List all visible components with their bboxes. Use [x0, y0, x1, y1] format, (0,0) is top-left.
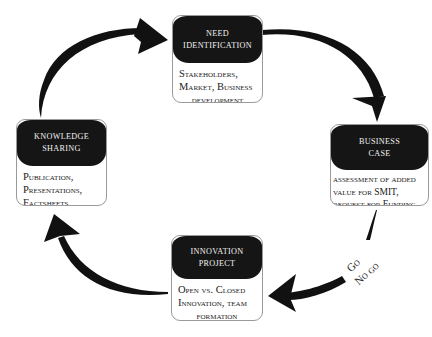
node-body-line: Factsheets — [23, 196, 100, 206]
node-title-line: Need — [173, 28, 262, 40]
node-title-line: Sharing — [17, 143, 106, 155]
node-body-line: value for SMIT, — [333, 186, 426, 199]
node-body-line: Market, Business — [179, 80, 256, 93]
node-title-line: Case — [331, 148, 428, 160]
node-header: Need Identification — [173, 16, 262, 63]
arrow-knowledge-to-need — [39, 18, 168, 118]
node-header: Innovation Project — [172, 236, 262, 279]
node-title-line: Innovation — [172, 246, 262, 258]
node-body-line: development — [179, 93, 256, 103]
node-title-line: Knowledge — [17, 131, 106, 143]
node-body-line: Innovation, team — [178, 296, 256, 309]
node-need-identification: Need Identification Stakeholders, Market… — [172, 15, 263, 103]
node-business-case: Business Case assessment of added value … — [330, 124, 429, 206]
node-body-line: assessment of added — [333, 173, 426, 186]
node-body-line: formation — [178, 309, 256, 321]
node-body-line: Open vs. Closed — [178, 283, 256, 296]
arrow-need-to-business — [262, 29, 386, 122]
node-body-line: request for Funding — [333, 198, 426, 206]
node-title-line: Project — [172, 258, 262, 270]
node-body: Open vs. Closed Innovation, team formati… — [172, 279, 262, 321]
arrow-business-to-innovation — [268, 210, 377, 312]
node-body: Publication, Presentations, Factsheets — [17, 166, 106, 206]
node-body-line: Publication, — [23, 170, 100, 183]
node-title-line: Business — [331, 136, 428, 148]
node-header: Knowledge Sharing — [17, 120, 106, 166]
node-body: assessment of added value for SMIT, requ… — [331, 170, 428, 206]
node-knowledge-sharing: Knowledge Sharing Publication, Presentat… — [16, 119, 107, 206]
node-header: Business Case — [331, 125, 428, 170]
node-body-line: Stakeholders, — [179, 67, 256, 80]
node-body: Stakeholders, Market, Business developme… — [173, 63, 262, 103]
arrow-innovation-to-knowledge — [44, 214, 168, 295]
node-title-line: Identification — [173, 40, 262, 52]
node-body-line: Presentations, — [23, 183, 100, 196]
node-innovation-project: Innovation Project Open vs. Closed Innov… — [171, 235, 263, 321]
